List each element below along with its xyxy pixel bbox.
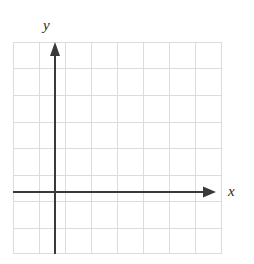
coordinate-grid-figure: x y bbox=[0, 0, 254, 264]
y-axis-label: y bbox=[43, 18, 50, 33]
coordinate-plane-svg bbox=[0, 0, 254, 264]
x-axis-label: x bbox=[228, 184, 235, 199]
